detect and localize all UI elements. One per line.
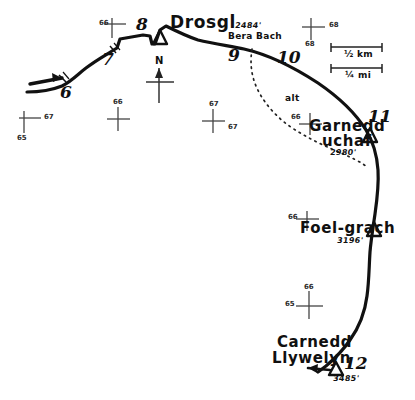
label-bera-bach: Bera Bach (228, 32, 282, 41)
label-drosgl-height: 2484' (234, 22, 261, 30)
scale-km-label: ½ km (344, 50, 373, 59)
hand-drawn-route-map: Drosgl 2484' Bera Bach Garnedd uchaf 298… (0, 0, 415, 400)
route-approach-arrow (30, 73, 62, 84)
grid-cross-lower (296, 291, 323, 319)
waypoint-9: 9 (228, 47, 240, 64)
grid-label-foel-grach-66: 66 (288, 214, 298, 221)
label-carnedd-line1: Carnedd (277, 335, 352, 350)
grid-label-centre-67-vertical: 67 (209, 101, 219, 108)
grid-label-left-65: 65 (17, 135, 27, 142)
summit-triangle-drosgl (153, 30, 167, 44)
grid-label-lower-65: 65 (285, 301, 295, 308)
label-foel-grach-height: 3196' (336, 237, 363, 245)
grid-label-top-left-66: 66 (99, 20, 109, 27)
map-drawing-layer (0, 0, 415, 400)
grid-label-garnedd-66: 66 (291, 114, 301, 121)
north-compass-needle (146, 68, 174, 103)
label-carnedd-height: 3485' (332, 375, 359, 383)
grid-label-centre-67-horizontal: 67 (228, 124, 238, 131)
label-carnedd-line2: Llywelyn (272, 351, 351, 366)
waypoint-11: 11 (368, 108, 392, 125)
waypoint-12: 12 (344, 355, 368, 372)
waypoint-8: 8 (136, 16, 148, 33)
label-drosgl: Drosgl (170, 14, 236, 31)
grid-cross-centre (202, 109, 225, 133)
scale-mi-label: ¼ mi (345, 71, 371, 80)
label-garnedd-uchaf-line2: uchaf (322, 134, 372, 149)
main-route-line (27, 26, 378, 372)
label-garnedd-uchaf-height: 2980' (329, 149, 356, 157)
grid-label-mid-66: 66 (113, 99, 123, 106)
grid-label-lower-66: 66 (304, 284, 314, 291)
grid-label-top-right-68-horizontal: 68 (329, 22, 339, 29)
grid-cross-left (19, 111, 41, 133)
grid-label-top-right-68-vertical: 68 (305, 41, 315, 48)
label-alt-path: alt (285, 94, 300, 103)
label-foel-grach: Foel-grach (300, 221, 395, 236)
waypoint-10: 10 (277, 49, 301, 66)
grid-cross-mid (107, 107, 130, 131)
compass-north-label: N (155, 56, 163, 66)
grid-label-left-67: 67 (44, 114, 54, 121)
grid-cross-top-right (302, 18, 325, 40)
waypoint-7: 7 (102, 51, 114, 68)
waypoint-6: 6 (60, 84, 72, 101)
